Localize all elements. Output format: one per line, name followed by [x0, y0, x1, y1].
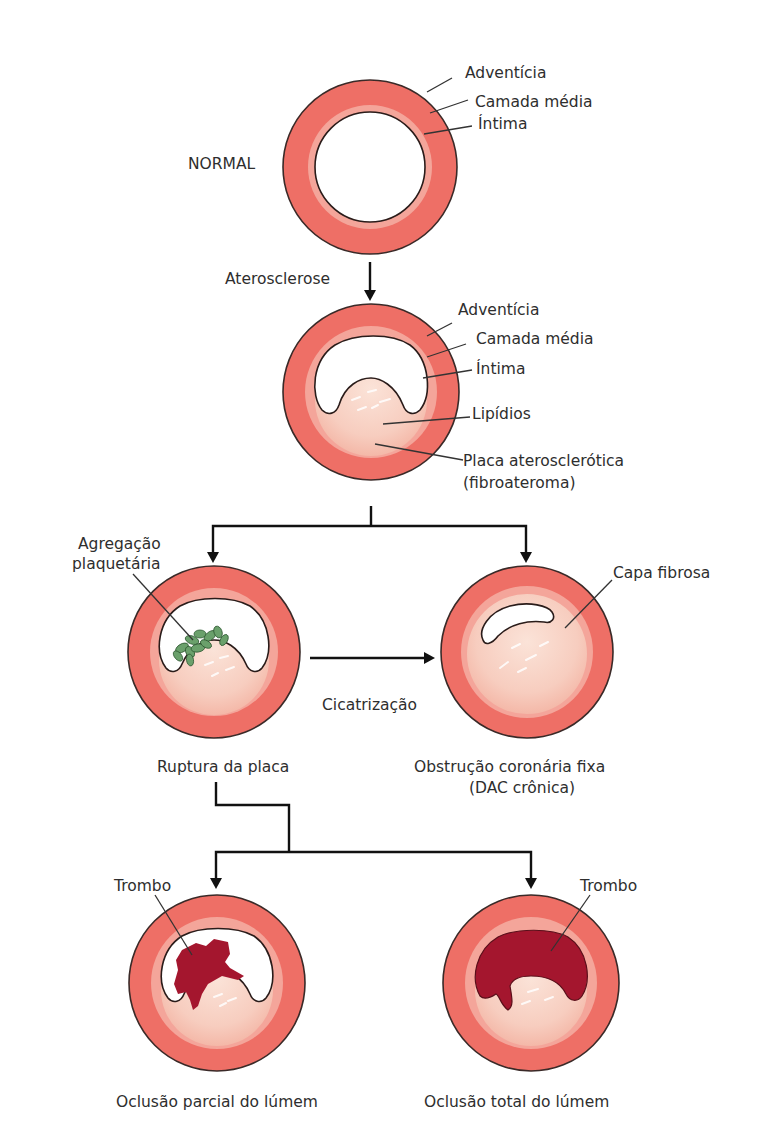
- label-adventitia-athero: Adventícia: [458, 301, 539, 320]
- vessel-total-occlusion: [443, 895, 619, 1071]
- label-fibrous-cap: Capa fibrosa: [613, 564, 710, 583]
- label-fibroatheroma: (fibroateroma): [463, 474, 575, 493]
- label-platelet-aggregation-2: plaquetária: [72, 555, 161, 574]
- label-media-normal: Camada média: [475, 93, 592, 112]
- atherosclerosis-progression-diagram: Adventícia Camada média Íntima NORMAL At…: [0, 0, 783, 1131]
- label-adventitia-normal: Adventícia: [465, 64, 546, 83]
- label-normal-title: NORMAL: [188, 155, 255, 174]
- caption-total-occlusion: Oclusão total do lúmem: [424, 1093, 609, 1112]
- vessel-fixed-obstruction: [441, 566, 613, 738]
- vessel-normal: [283, 78, 472, 254]
- caption-fixed-obstruction-1: Obstrução coronária fixa: [414, 758, 605, 777]
- label-lipids: Lipídios: [472, 405, 531, 424]
- label-atherosclerosis-arrow: Aterosclerose: [225, 270, 330, 289]
- vessel-partial-occlusion: [129, 895, 305, 1071]
- vessel-atherosclerosis: [283, 304, 472, 480]
- label-intima-normal: Íntima: [478, 115, 527, 134]
- caption-plaque-rupture: Ruptura da placa: [157, 758, 289, 777]
- label-plaque: Placa aterosclerótica: [463, 452, 624, 471]
- label-intima-athero: Íntima: [476, 360, 525, 379]
- label-platelet-aggregation-1: Agregação: [78, 535, 161, 554]
- branch-connector-1: [207, 506, 532, 563]
- branch-connector-2: [210, 782, 537, 889]
- caption-partial-occlusion: Oclusão parcial do lúmem: [116, 1093, 318, 1112]
- caption-fixed-obstruction-2: (DAC crônica): [469, 779, 575, 798]
- label-healing-arrow: Cicatrização: [322, 696, 417, 715]
- vessel-plaque-rupture: [128, 566, 300, 738]
- label-thrombus-total: Trombo: [580, 877, 637, 896]
- label-media-athero: Camada média: [476, 330, 593, 349]
- label-thrombus-partial: Trombo: [114, 877, 171, 896]
